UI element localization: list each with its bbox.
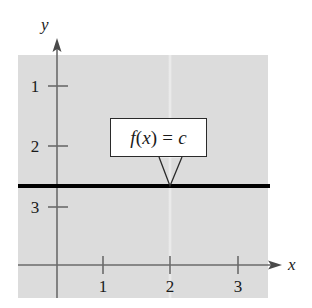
function-callout-box: f(x) = c (110, 118, 207, 157)
x-tick-label-2: 2 (161, 278, 179, 295)
y-tick-label-3: 1 (26, 78, 44, 95)
callout-constant: c (178, 127, 187, 148)
callout-close-equals: ) = (151, 127, 178, 148)
function-callout-label: f(x) = c (130, 127, 187, 149)
x-tick-label-1: 1 (94, 278, 112, 295)
y-tick-label-1: 3 (26, 199, 44, 216)
y-tick-label-2: 2 (26, 138, 44, 155)
y-axis-label: y (41, 16, 49, 33)
x-axis-label: x (288, 256, 296, 273)
callout-tail (159, 157, 182, 186)
x-tick-label-3: 3 (229, 278, 247, 295)
callout-variable: x (142, 127, 151, 148)
constant-function-figure: 1 2 3 1 2 3 y x f(x) = c (0, 0, 312, 308)
